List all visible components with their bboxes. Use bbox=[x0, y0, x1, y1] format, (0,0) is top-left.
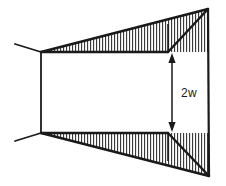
bottom-left-stub bbox=[15, 133, 41, 141]
bottom-wedge-group bbox=[15, 133, 209, 176]
top-left-stub bbox=[15, 44, 41, 52]
right-vertical-edge bbox=[208, 9, 209, 176]
channel-perspective-diagram: 2w bbox=[0, 0, 226, 186]
dimension-arrow-group: 2w bbox=[168, 53, 197, 132]
dimension-arrowhead-up bbox=[168, 53, 175, 63]
dimension-label-2w: 2w bbox=[181, 86, 197, 100]
figure-container: 2w bbox=[0, 0, 226, 186]
dimension-arrowhead-down bbox=[168, 122, 175, 132]
top-wedge-group bbox=[15, 9, 208, 52]
